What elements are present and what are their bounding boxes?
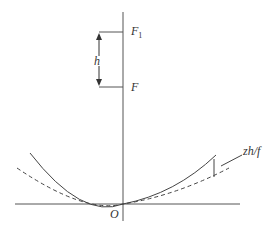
- deflection-leader-line: [221, 155, 242, 166]
- arrow-down-icon: [96, 79, 102, 86]
- label-deflection: zh/f: [243, 145, 260, 157]
- label-f: F: [131, 81, 138, 93]
- arrow-up-icon: [96, 33, 102, 40]
- label-origin: O: [110, 208, 119, 220]
- label-f1: F1: [131, 25, 142, 42]
- label-h: h: [94, 55, 100, 67]
